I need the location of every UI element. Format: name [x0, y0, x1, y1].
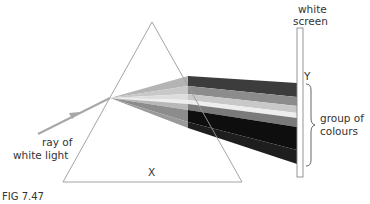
prism-dispersion-diagram: white screen Y group of colours ray of w… — [0, 0, 370, 204]
internal-spectrum — [110, 76, 188, 128]
label-group-of-colours-2: colours — [320, 125, 358, 137]
white-screen — [297, 28, 303, 177]
label-ray-1: ray of — [42, 136, 73, 148]
dispersed-spectrum — [188, 76, 297, 164]
curly-brace-icon — [306, 84, 315, 166]
label-white-screen-2: screen — [293, 15, 328, 27]
label-point-x: X — [148, 166, 155, 178]
label-group-of-colours-1: group of — [320, 112, 364, 124]
label-ray-2: white light — [13, 149, 68, 161]
label-white-screen-1: white — [298, 3, 327, 15]
label-point-y: Y — [303, 70, 311, 82]
figure-caption: FIG 7.47 — [2, 191, 44, 202]
